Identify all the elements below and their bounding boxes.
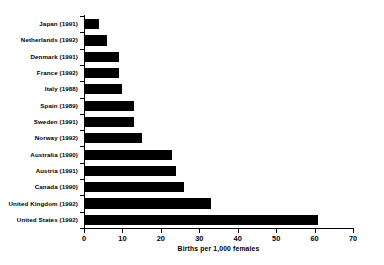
value-tick-label: 20 [149,234,173,243]
bar [84,52,119,62]
category-label: France (1992) [37,69,78,76]
bar [84,35,107,45]
category-label: Netherlands (1992) [21,36,78,43]
value-tick [276,229,277,233]
value-tick [353,229,354,233]
bar [84,198,211,208]
category-axis-labels: Japan (1991)Netherlands (1992)Denmark (1… [0,16,81,228]
category-label: United Kingdom (1992) [9,200,78,207]
category-label: Denmark (1991) [31,53,79,60]
value-tick [122,229,123,233]
value-tick-label: 60 [303,234,327,243]
value-axis-line [84,228,354,229]
category-label: Norway (1992) [35,134,78,141]
value-tick-label: 0 [72,234,96,243]
category-label: Spain (1989) [40,102,78,109]
births-per-1000-females-bar-chart: Japan (1991)Netherlands (1992)Denmark (1… [0,0,384,265]
bar [84,68,119,78]
bar [84,19,99,29]
value-tick-label: 50 [264,234,288,243]
value-tick-label: 10 [110,234,134,243]
bar [84,215,318,225]
category-label: Japan (1991) [39,20,78,27]
category-label: Austria (1991) [36,167,78,174]
value-tick [238,229,239,233]
category-label: Canada (1990) [35,183,78,190]
x-axis-title: Births per 1,000 females [84,245,353,252]
bar [84,101,134,111]
value-tick [315,229,316,233]
category-label: Sweden (1991) [34,118,78,125]
bar [84,133,142,143]
category-label: Italy (1988) [45,85,78,92]
value-tick-label: 70 [341,234,365,243]
bar [84,84,122,94]
bar [84,182,184,192]
bar [84,166,176,176]
value-tick [84,229,85,233]
value-tick [161,229,162,233]
category-label: Australia (1990) [30,151,78,158]
bar [84,150,172,160]
plot-area [84,16,353,228]
category-label: United States (1992) [17,216,78,223]
bar [84,117,134,127]
value-tick [199,229,200,233]
value-tick-label: 30 [187,234,211,243]
value-tick-label: 40 [226,234,250,243]
